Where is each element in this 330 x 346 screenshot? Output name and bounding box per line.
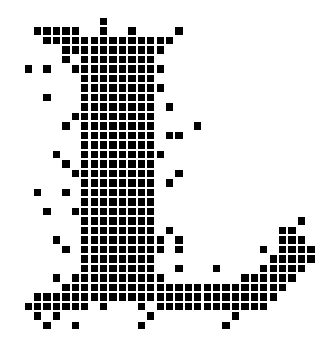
pixel-square: [157, 246, 164, 253]
pixel-square: [241, 284, 248, 291]
pixel-square: [100, 46, 107, 53]
pixel-square: [185, 303, 192, 310]
pixel-square: [128, 255, 135, 262]
pixel-square: [166, 132, 173, 139]
pixel-square: [194, 122, 201, 129]
pixel-square: [53, 27, 60, 34]
pixel-square: [138, 94, 145, 101]
pixel-square: [100, 179, 107, 186]
pixel-square: [81, 217, 88, 224]
pixel-square: [279, 284, 286, 291]
pixel-square: [109, 37, 116, 44]
pixel-square: [157, 303, 164, 310]
pixel-square: [109, 179, 116, 186]
pixel-square: [298, 255, 305, 262]
pixel-square: [119, 227, 126, 234]
pixel-square: [166, 37, 173, 44]
pixel-square: [72, 208, 79, 215]
pixel-square: [185, 284, 192, 291]
pixel-square: [147, 208, 154, 215]
pixel-square: [91, 246, 98, 253]
pixel-square: [128, 217, 135, 224]
pixel-square: [72, 274, 79, 281]
pixel-square: [81, 151, 88, 158]
pixel-square: [147, 198, 154, 205]
pixel-square: [260, 303, 267, 310]
pixel-square: [81, 65, 88, 72]
pixel-square: [128, 293, 135, 300]
pixel-square: [147, 75, 154, 82]
pixel-square: [194, 303, 201, 310]
pixel-square: [157, 37, 164, 44]
pixel-square: [147, 37, 154, 44]
pixel-square: [81, 84, 88, 91]
pixel-square: [119, 75, 126, 82]
pixel-square: [119, 246, 126, 253]
pixel-square: [138, 122, 145, 129]
pixel-square: [109, 189, 116, 196]
pixel-square: [109, 236, 116, 243]
pixel-square: [119, 198, 126, 205]
pixel-square: [43, 27, 50, 34]
pixel-square: [119, 94, 126, 101]
pixel-square: [91, 151, 98, 158]
pixel-square: [43, 208, 50, 215]
pixel-square: [72, 113, 79, 120]
pixel-square: [81, 170, 88, 177]
pixel-square: [53, 312, 60, 319]
pixel-square: [251, 284, 258, 291]
pixel-square: [81, 37, 88, 44]
pixel-square: [43, 303, 50, 310]
pixel-square: [166, 303, 173, 310]
pixel-square: [91, 170, 98, 177]
pixel-square: [128, 274, 135, 281]
pixel-square: [185, 293, 192, 300]
pixel-square: [166, 103, 173, 110]
pixel-square: [270, 293, 277, 300]
pixel-square: [100, 170, 107, 177]
pixel-square: [260, 265, 267, 272]
pixel-square: [72, 322, 79, 329]
pixel-square: [128, 246, 135, 253]
pixel-square: [288, 265, 295, 272]
pixel-square: [147, 284, 154, 291]
pixel-square: [100, 265, 107, 272]
pixel-square: [138, 151, 145, 158]
pixel-square: [81, 265, 88, 272]
pixel-square: [260, 284, 267, 291]
pixel-square: [43, 322, 50, 329]
pixel-square: [298, 246, 305, 253]
pixel-square: [109, 170, 116, 177]
pixel-square: [34, 303, 41, 310]
pixel-square: [128, 198, 135, 205]
pixel-square: [109, 208, 116, 215]
pixel-square: [119, 160, 126, 167]
pixel-square: [175, 236, 182, 243]
pixel-square: [119, 265, 126, 272]
pixel-square: [119, 84, 126, 91]
pixel-square: [43, 65, 50, 72]
pixel-square: [270, 265, 277, 272]
pixel-square: [128, 27, 135, 34]
pixel-square: [53, 37, 60, 44]
pixel-square: [100, 189, 107, 196]
pixel-square: [34, 189, 41, 196]
pixel-square: [128, 46, 135, 53]
pixel-square: [109, 160, 116, 167]
pixel-square: [147, 293, 154, 300]
pixel-square: [119, 151, 126, 158]
pixel-square: [91, 46, 98, 53]
pixel-square: [109, 84, 116, 91]
pixel-square: [147, 103, 154, 110]
pixel-square: [138, 46, 145, 53]
pixel-square: [109, 151, 116, 158]
pixel-square: [138, 217, 145, 224]
pixel-square: [147, 122, 154, 129]
pixel-square: [279, 265, 286, 272]
pixel-square: [109, 274, 116, 281]
pixel-square: [147, 56, 154, 63]
pixel-square: [91, 113, 98, 120]
pixel-square: [62, 56, 69, 63]
pixel-square: [213, 303, 220, 310]
pixel-square: [138, 246, 145, 253]
